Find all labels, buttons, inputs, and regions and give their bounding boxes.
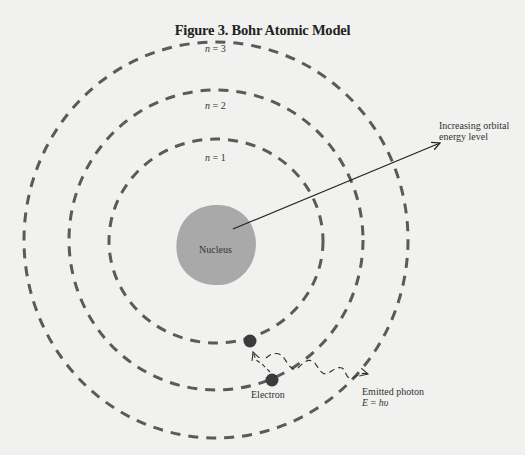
- diagram-canvas: [0, 0, 525, 455]
- figure-title: Figure 3. Bohr Atomic Model: [0, 22, 525, 39]
- nucleus-label: Nucleus: [199, 244, 232, 255]
- photon-formula-eq: =: [368, 397, 379, 408]
- energy-arrow: [233, 143, 440, 229]
- energy-label-line1: Increasing orbital: [439, 120, 509, 131]
- orbit-label-n1: n = 1: [205, 152, 226, 163]
- photon-label: Emitted photon E = hυ: [362, 386, 424, 408]
- photon-formula: E = hυ: [362, 397, 424, 408]
- transition-arrow: [253, 352, 270, 372]
- energy-arrow-label: Increasing orbital energy level: [439, 120, 509, 142]
- orbit-label-eq: = 3: [210, 43, 226, 54]
- bohr-model-figure: Figure 3. Bohr Atomic Model n = 3 n = 2 …: [0, 0, 525, 455]
- electron-upper: [244, 335, 257, 348]
- electron-label: Electron: [251, 389, 285, 400]
- photon-formula-rhs: hυ: [379, 397, 389, 408]
- orbit-label-n2: n = 2: [205, 100, 226, 111]
- orbit-label-eq: = 1: [210, 152, 226, 163]
- photon-label-text: Emitted photon: [362, 386, 424, 397]
- energy-label-line2: energy level: [439, 131, 509, 142]
- electron-lower: [266, 374, 279, 387]
- orbit-label-eq: = 2: [210, 100, 226, 111]
- orbit-label-n3: n = 3: [205, 43, 226, 54]
